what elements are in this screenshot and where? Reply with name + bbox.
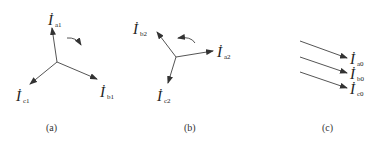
phasor-subscript: b2 bbox=[140, 30, 147, 38]
phasor-symbol: İ bbox=[157, 88, 162, 104]
phasor-symbol: İ bbox=[100, 84, 105, 100]
phasor-subscript: c1 bbox=[23, 97, 30, 105]
caption-a: (a) bbox=[46, 122, 57, 133]
label-a2: İa2 bbox=[217, 44, 231, 61]
phasor-c1-arrow bbox=[30, 62, 57, 84]
phasor-symbol: İ bbox=[350, 81, 355, 97]
counterclockwise-rotation-arrow bbox=[178, 38, 195, 43]
phasor-a0-arrow bbox=[300, 41, 347, 58]
phasor-symbol: İ bbox=[350, 66, 355, 82]
phasor-symbol: İ bbox=[350, 51, 355, 67]
phasor-subscript: b1 bbox=[107, 93, 114, 101]
phasor-subscript: a1 bbox=[55, 21, 62, 29]
phasor-subscript: c0 bbox=[357, 90, 364, 98]
panel-a-phasors bbox=[30, 28, 97, 84]
caption-b: (b) bbox=[184, 122, 196, 133]
label-c0: İc0 bbox=[350, 81, 364, 98]
phasor-symbol: İ bbox=[133, 21, 138, 37]
phasor-subscript: c2 bbox=[164, 97, 171, 105]
phasor-c0-arrow bbox=[300, 72, 347, 88]
phasor-a2-arrow bbox=[176, 51, 213, 57]
label-c2: İc2 bbox=[157, 88, 171, 105]
label-b2: İb2 bbox=[133, 21, 147, 38]
label-a1: İa1 bbox=[48, 12, 62, 29]
panel-c-phasors bbox=[300, 41, 347, 88]
phasor-b2-arrow bbox=[157, 32, 176, 57]
phasor-b1-arrow bbox=[57, 62, 97, 79]
clockwise-rotation-arrow bbox=[67, 38, 81, 45]
phasor-symbol: İ bbox=[48, 12, 53, 28]
phasor-b0-arrow bbox=[300, 57, 347, 73]
caption-c: (c) bbox=[322, 122, 333, 133]
panel-b-phasors bbox=[157, 32, 213, 83]
phasor-c2-arrow bbox=[168, 57, 176, 83]
label-b1: İb1 bbox=[100, 84, 114, 101]
phasor-a1-arrow bbox=[52, 28, 57, 62]
phasor-symbol: İ bbox=[217, 44, 222, 60]
phasor-subscript: a2 bbox=[224, 53, 231, 61]
label-c1: İc1 bbox=[16, 88, 30, 105]
phasor-symbol: İ bbox=[16, 88, 21, 104]
